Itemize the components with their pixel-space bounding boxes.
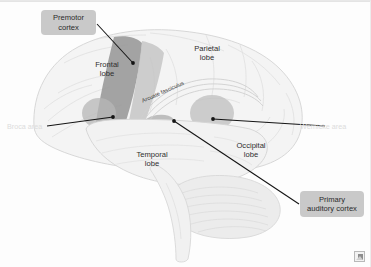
label-parietal-lobe: Parietal lobe [183, 44, 231, 63]
callout-primary-auditory-cortex[interactable]: Primary auditory cortex [300, 191, 364, 217]
endpoint-wernicke [211, 117, 215, 121]
callout-premotor-cortex[interactable]: Premotor cortex [41, 10, 96, 35]
callout-auditory-line1: Primary [307, 195, 357, 204]
brain-illustration [0, 1, 371, 267]
endpoint-auditory [172, 119, 176, 123]
callout-auditory-line2: auditory cortex [307, 204, 357, 213]
label-broca-area: Broca area [7, 122, 42, 131]
callout-premotor-line2: cortex [53, 23, 84, 32]
label-occipital-lobe: Occipital lobe [226, 141, 276, 160]
label-temporal-lobe: Temporal lobe [126, 150, 178, 169]
endpoint-broca [111, 115, 115, 119]
broken-image-icon [354, 251, 365, 262]
callout-premotor-line1: Premotor [53, 13, 84, 22]
label-wernicke-area: Wernicke area [300, 122, 346, 131]
endpoint-premotor [131, 61, 135, 65]
label-frontal-lobe: Frontal lobe [84, 60, 130, 79]
figure-canvas: Premotor cortex Primary auditory cortex … [0, 0, 371, 267]
